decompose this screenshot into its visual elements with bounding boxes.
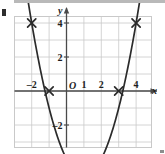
page-edge-bar bbox=[14, 0, 165, 3]
x-tick-label: –2 bbox=[26, 79, 37, 90]
origin-label: O bbox=[69, 80, 76, 91]
graph-figure: –2124642–2–4–6 x y O bbox=[0, 0, 165, 154]
x-tick-label: 1 bbox=[81, 79, 86, 90]
coordinate-plane: –2124642–2–4–6 x y O bbox=[0, 0, 165, 154]
x-tick-label: 4 bbox=[134, 79, 139, 90]
axis-arrowheads bbox=[64, 7, 157, 94]
y-axis-label: y bbox=[57, 5, 63, 16]
y-tick-label: –2 bbox=[52, 120, 63, 131]
x-tick-label: 2 bbox=[99, 79, 104, 90]
list-bullet-marker bbox=[2, 9, 6, 16]
x-axis-label: x bbox=[151, 85, 157, 96]
y-tick-label: 2 bbox=[58, 52, 63, 63]
page-corner-artifact bbox=[160, 150, 164, 153]
y-tick-label: 4 bbox=[58, 18, 63, 29]
